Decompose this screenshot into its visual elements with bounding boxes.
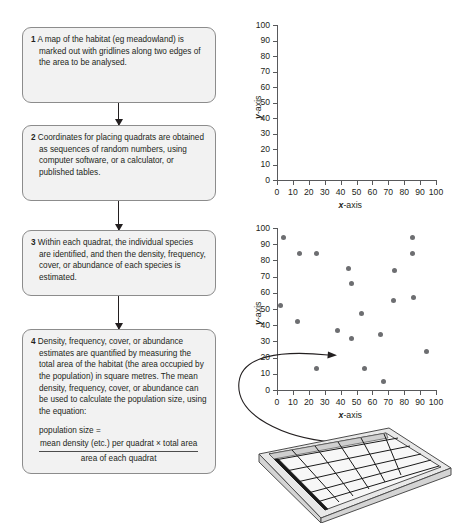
flowchart: 1 A map of the habitat (eg meadowland) i… bbox=[0, 0, 228, 523]
y-tick bbox=[273, 118, 277, 119]
y-tick-label: 100 bbox=[232, 20, 270, 30]
flow-arrow-2-to-3 bbox=[118, 201, 119, 230]
flowchart-step-3: 3 Within each quadrat, the individual sp… bbox=[22, 230, 216, 296]
x-tick bbox=[436, 181, 437, 185]
x-tick bbox=[372, 181, 373, 185]
flowchart-step-1: 1 A map of the habitat (eg meadowland) i… bbox=[22, 27, 216, 103]
y-tick-label: 40 bbox=[232, 113, 270, 123]
step-1-number: 1 bbox=[31, 35, 36, 44]
y-tick-label: 90 bbox=[232, 239, 270, 249]
scatter-point bbox=[349, 281, 354, 286]
scatter-point bbox=[314, 251, 319, 256]
quadrat-illustration bbox=[255, 422, 455, 523]
x-tick bbox=[357, 181, 358, 185]
y-tick bbox=[273, 103, 277, 104]
y-tick-label: 0 bbox=[232, 175, 270, 185]
equation-lhs: population size = bbox=[39, 425, 207, 437]
y-tick-label: 90 bbox=[232, 35, 270, 45]
x-tick bbox=[404, 391, 405, 395]
flow-arrow-3-to-4 bbox=[118, 296, 119, 329]
x-tick bbox=[341, 181, 342, 185]
scatter-point bbox=[278, 303, 283, 308]
y-tick-label: 30 bbox=[232, 128, 270, 138]
x-tick bbox=[293, 181, 294, 185]
step-4-text: Density, frequency, cover, or abundance … bbox=[38, 337, 207, 416]
step-1-paragraph: 1 A map of the habitat (eg meadowland) i… bbox=[31, 34, 207, 69]
equation-denominator: area of each quadrat bbox=[39, 452, 198, 465]
x-tick bbox=[388, 181, 389, 185]
x-tick bbox=[388, 391, 389, 395]
scatter-point bbox=[410, 235, 415, 240]
x-axis-label: x-axis bbox=[339, 200, 362, 210]
x-tick bbox=[325, 181, 326, 185]
scatter-point bbox=[381, 379, 386, 384]
chart-grid-axes: 0102030405060708090100010203040506070809… bbox=[232, 8, 460, 213]
y-tick bbox=[273, 149, 277, 150]
scatter-point bbox=[411, 295, 416, 300]
y-tick bbox=[273, 41, 277, 42]
x-tick bbox=[420, 391, 421, 395]
step-2-text: Coordinates for placing quadrats are obt… bbox=[38, 133, 204, 177]
step-4-number: 4 bbox=[31, 337, 36, 346]
x-tick-label: 100 bbox=[425, 397, 447, 407]
y-tick-label: 60 bbox=[232, 287, 270, 297]
y-tick-label: 100 bbox=[232, 223, 270, 233]
flow-arrow-1-to-2 bbox=[118, 103, 119, 125]
x-tick bbox=[404, 181, 405, 185]
y-tick bbox=[273, 134, 277, 135]
y-tick-label: 70 bbox=[232, 66, 270, 76]
x-tick bbox=[420, 181, 421, 185]
step-1-text: A map of the habitat (eg meadowland) is … bbox=[37, 35, 200, 67]
scatter-point bbox=[424, 349, 429, 354]
y-tick bbox=[273, 244, 277, 245]
x-tick bbox=[277, 181, 278, 185]
y-tick-label: 60 bbox=[232, 82, 270, 92]
y-axis-label: y-axis bbox=[253, 95, 263, 118]
flowchart-step-2: 2 Coordinates for placing quadrats are o… bbox=[22, 125, 216, 201]
y-tick bbox=[273, 56, 277, 57]
y-tick bbox=[273, 87, 277, 88]
scatter-point bbox=[281, 235, 286, 240]
equation-numerator: mean density (etc.) per quadrat × total … bbox=[39, 438, 198, 452]
population-size-equation: population size = mean density (etc.) pe… bbox=[31, 425, 207, 464]
x-tick bbox=[436, 391, 437, 395]
scatter-point bbox=[359, 311, 364, 316]
y-tick-label: 50 bbox=[232, 304, 270, 314]
scatter-point bbox=[392, 268, 397, 273]
y-tick bbox=[273, 165, 277, 166]
y-tick bbox=[273, 277, 277, 278]
step-2-number: 2 bbox=[31, 133, 36, 142]
equation-fraction: mean density (etc.) per quadrat × total … bbox=[39, 438, 198, 464]
y-tick-label: 80 bbox=[232, 51, 270, 61]
step-3-paragraph: 3 Within each quadrat, the individual sp… bbox=[31, 237, 207, 284]
y-tick-label: 70 bbox=[232, 271, 270, 281]
flowchart-step-4: 4 Density, frequency, cover, or abundanc… bbox=[22, 329, 216, 474]
x-tick-label: 100 bbox=[425, 187, 447, 197]
y-tick bbox=[273, 309, 277, 310]
scatter-point bbox=[346, 266, 351, 271]
step-3-text: Within each quadrat, the individual spec… bbox=[38, 238, 206, 282]
y-tick bbox=[273, 293, 277, 294]
y-tick-label: 20 bbox=[232, 144, 270, 154]
scatter-point bbox=[378, 332, 383, 337]
y-tick-label: 10 bbox=[232, 159, 270, 169]
y-tick bbox=[273, 260, 277, 261]
y-tick bbox=[273, 25, 277, 26]
x-tick bbox=[309, 181, 310, 185]
scatter-point bbox=[297, 251, 302, 256]
y-tick bbox=[273, 72, 277, 73]
y-tick bbox=[273, 228, 277, 229]
step-2-paragraph: 2 Coordinates for placing quadrats are o… bbox=[31, 132, 207, 179]
scatter-point bbox=[391, 298, 396, 303]
scatter-point bbox=[410, 251, 415, 256]
y-tick-label: 80 bbox=[232, 255, 270, 265]
step-4-paragraph: 4 Density, frequency, cover, or abundanc… bbox=[31, 336, 207, 417]
step-3-number: 3 bbox=[31, 238, 36, 247]
x-tick bbox=[372, 391, 373, 395]
y-tick-label: 50 bbox=[232, 97, 270, 107]
y-axis-line bbox=[277, 25, 278, 181]
figure-root: 1 A map of the habitat (eg meadowland) i… bbox=[0, 0, 460, 523]
